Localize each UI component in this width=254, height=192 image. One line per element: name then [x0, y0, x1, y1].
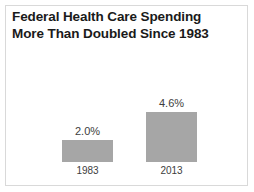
plot-area: 2.0% 1983 4.6% 2013 — [6, 6, 248, 186]
bar-value-label-2013: 4.6% — [146, 97, 197, 109]
bar-group-1983: 2.0% 1983 — [62, 140, 113, 162]
bar-rect-1983 — [62, 140, 113, 162]
bar-category-label-1983: 1983 — [52, 165, 123, 176]
bar-category-label-2013: 2013 — [136, 165, 207, 176]
bar-rect-2013 — [146, 112, 197, 162]
bar-group-2013: 4.6% 2013 — [146, 112, 197, 162]
chart-figure: Federal Health Care Spending More Than D… — [0, 0, 254, 192]
bar-value-label-1983: 2.0% — [62, 125, 113, 137]
